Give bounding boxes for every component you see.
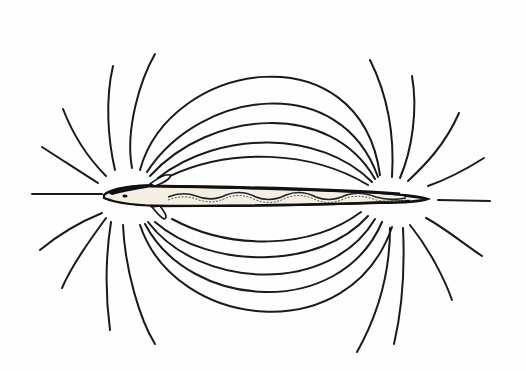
field-line-bottom-left-4 — [123, 225, 155, 344]
electric-field-figure: Line drawing of an elongated electric fi… — [0, 0, 526, 371]
field-line-bottom-right-1 — [357, 228, 390, 352]
field-line-top-arc-2 — [147, 104, 378, 177]
field-line-bottom-right-2 — [394, 228, 404, 344]
field-diagram — [0, 0, 526, 371]
field-line-bottom-left-2 — [62, 218, 106, 288]
field-line-top-left-2 — [63, 109, 106, 176]
fish-pectoral-fin-top — [150, 175, 170, 186]
field-line-top-left-4 — [130, 54, 155, 168]
field-line-top-arc-4 — [158, 142, 372, 182]
field-line-top-arc-5 — [170, 157, 368, 185]
field-line-bottom-arc-2 — [155, 216, 368, 257]
fish-pectoral-fin-bottom — [152, 206, 166, 219]
field-line-bottom-left-3 — [107, 222, 111, 330]
field-line-bottom-arc-1 — [172, 212, 361, 241]
field-line-top-left-3 — [108, 66, 115, 170]
bottom-field-lines — [40, 212, 482, 352]
field-line-top-right-4 — [428, 158, 484, 186]
field-line-top-right-1 — [370, 60, 393, 177]
field-line-bottom-right-3 — [410, 225, 452, 300]
field-line-top-left-1 — [42, 147, 98, 183]
electric-fish — [104, 175, 428, 219]
field-line-top-right-2 — [400, 76, 414, 178]
field-line-bottom-left-1 — [40, 213, 102, 250]
top-field-lines — [42, 54, 484, 186]
fish-eye — [122, 194, 127, 197]
field-line-top-right-3 — [408, 113, 459, 181]
axial-line-right — [438, 200, 490, 201]
field-line-bottom-right-4 — [426, 218, 482, 256]
